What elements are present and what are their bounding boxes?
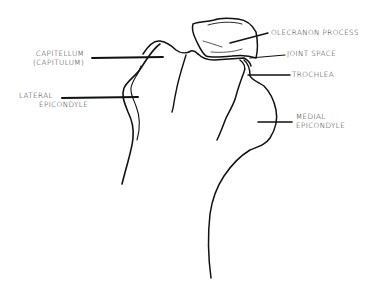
trochlea-contour — [217, 60, 245, 140]
label-olecranon-process: OLECRANON PROCESS — [271, 29, 359, 38]
label-joint-space-line-1: JOINT SPACE — [287, 50, 336, 59]
label-trochlea: TROCHLEA — [292, 71, 334, 80]
label-joint-space: JOINT SPACE — [287, 50, 336, 59]
leader-capitellum — [92, 57, 163, 58]
label-capitellum-line-2: (CAPITULUM) — [33, 59, 84, 68]
label-lateral-epicondyle-line-2: EPICONDYLE — [19, 101, 88, 110]
elbow-drawing — [0, 0, 376, 296]
label-lateral-epicondyle: LATERAL EPICONDYLE — [19, 92, 88, 109]
label-trochlea-line-1: TROCHLEA — [292, 71, 334, 80]
medial-contour — [209, 60, 277, 278]
capitellum-inner-line — [172, 55, 186, 112]
olecranon-inner-line-2 — [203, 41, 222, 47]
leader-olecranon — [230, 33, 268, 43]
label-medial-epicondyle-line-2: EPICONDYLE — [296, 122, 345, 131]
elbow-anatomy-diagram: CAPITELLUM (CAPITULUM) LATERAL EPICONDYL… — [0, 0, 376, 296]
label-medial-epicondyle: MEDIAL EPICONDYLE — [296, 113, 345, 130]
label-capitellum: CAPITELLUM (CAPITULUM) — [33, 50, 84, 67]
label-olecranon-process-line-1: OLECRANON PROCESS — [271, 29, 359, 38]
lateral-outer-contour — [122, 44, 160, 184]
leader-joint-space — [250, 55, 285, 58]
olecranon-inner-line-1 — [208, 22, 242, 25]
olecranon-inner-line-3 — [211, 49, 242, 52]
